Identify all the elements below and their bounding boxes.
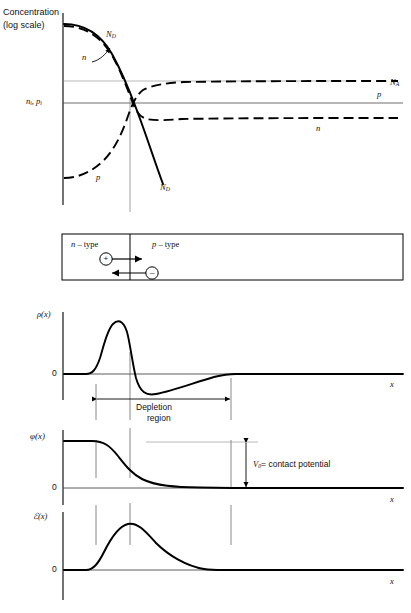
ytick-p-subscript: i <box>40 100 42 106</box>
phi-argument: (x) <box>35 431 45 441</box>
depletion-label-line2: region <box>147 414 171 423</box>
label-nd-lower: ND <box>160 183 170 193</box>
annotation-arrow-n <box>92 48 110 62</box>
electron-charge-sign: – <box>150 269 154 277</box>
region-label-n-type: n – type <box>71 240 98 249</box>
panel-concentration-axes <box>63 13 403 212</box>
curve-efield <box>64 524 403 570</box>
phi-xaxis-label: x <box>390 495 394 504</box>
efield-axis-label: ℰ(x) <box>33 512 47 521</box>
label-n-left: n <box>82 53 86 62</box>
panel-junction-box <box>62 234 403 280</box>
efield-argument: (x) <box>38 511 47 521</box>
region-p-word: type <box>165 239 180 249</box>
region-n-sym: n <box>71 239 75 249</box>
pn-junction-figure: Concentration (log scale) ni, pi ND n ND… <box>0 0 411 613</box>
panel-phi-axes <box>63 428 403 505</box>
depletion-label-line1: Depletion <box>136 403 172 412</box>
label-nd-lower-sub: D <box>166 186 170 192</box>
label-nd-upper: ND <box>106 30 116 40</box>
region-p-dash: – <box>158 239 162 249</box>
region-label-p-type: p – type <box>152 240 179 249</box>
contact-potential-text: = contact potential <box>261 459 330 469</box>
rho-axis-label: ρ(x) <box>37 310 51 319</box>
phi-axis-label: φ(x) <box>30 432 45 441</box>
panel-rho-axes <box>63 312 403 420</box>
label-na-right: NA <box>390 78 399 88</box>
efield-ytick-zero: 0 <box>52 565 57 574</box>
contact-potential-label: V0= contact potential <box>253 460 330 470</box>
efield-xaxis-label: x <box>390 577 394 586</box>
rho-ytick-zero: 0 <box>52 369 57 378</box>
rho-argument: (x) <box>41 309 50 319</box>
curve-rho <box>64 321 403 394</box>
concentration-axis-label-line2: (log scale) <box>3 21 45 30</box>
label-p-left: p <box>96 173 100 182</box>
curve-p-dashed <box>64 81 398 178</box>
concentration-axis-label-line1: Concentration <box>3 8 59 17</box>
ytick-ni-pi: ni, pi <box>26 97 42 107</box>
phi-ytick-zero: 0 <box>52 483 57 492</box>
rho-xaxis-label: x <box>390 380 394 389</box>
region-n-word: type <box>84 239 99 249</box>
label-nd-upper-sub: D <box>112 33 116 39</box>
figure-vector-layer <box>0 0 411 613</box>
curve-phi <box>64 441 403 488</box>
curve-nd-solid <box>64 24 163 184</box>
hole-charge-sign: + <box>104 255 109 263</box>
label-p-right: p <box>377 90 381 99</box>
panel-efield-axes <box>63 503 403 600</box>
region-n-dash: – <box>77 239 81 249</box>
region-p-sym: p <box>152 239 156 249</box>
label-na-right-sub: A <box>396 81 400 87</box>
label-n-right: n <box>316 124 320 133</box>
